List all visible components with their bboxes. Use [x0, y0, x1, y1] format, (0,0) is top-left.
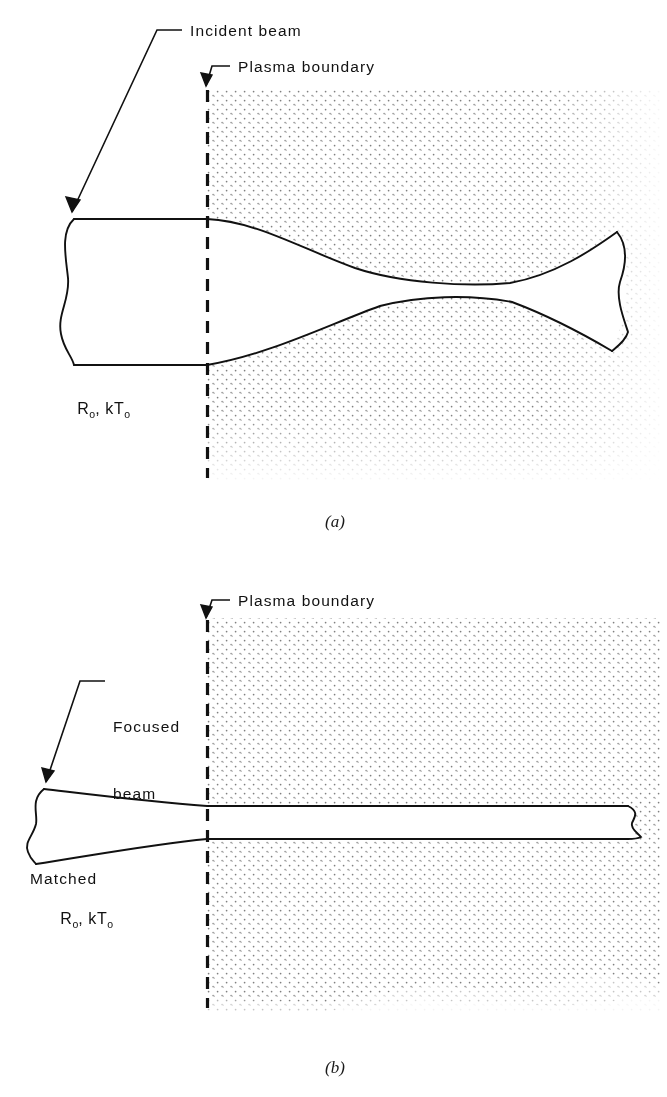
label-beam-params-a: Ro, kTo: [57, 382, 130, 438]
plasma-region-a: [207, 88, 660, 480]
label-incident-beam: Incident beam: [190, 21, 302, 41]
label-kT-b: , kT: [78, 910, 107, 927]
plasma-region-b: [207, 618, 660, 1012]
leader-focused-beam: [42, 681, 105, 782]
label-kT-sub-b: o: [107, 919, 113, 931]
label-kT-a: , kT: [95, 400, 124, 417]
label-matched-params: Matched Ro, kTo: [30, 869, 113, 949]
leader-incident-beam: [66, 30, 182, 212]
leader-plasma-boundary-b: [201, 600, 230, 618]
caption-panel-b: (b): [325, 1058, 345, 1078]
beam-break-line-left-b: [27, 789, 44, 864]
beam-break-line-left-a: [60, 219, 74, 365]
leader-plasma-boundary-a: [201, 66, 230, 86]
panel-a-group: [60, 30, 660, 480]
label-matched-line2: Ro, kTo: [30, 892, 113, 948]
label-plasma-boundary-a: Plasma boundary: [238, 57, 375, 77]
label-R-a: R: [77, 400, 89, 417]
figure-root: Incident beam Plasma boundary Ro, kTo (a…: [0, 0, 667, 1097]
label-focused-beam-line2: beam: [113, 783, 180, 805]
label-plasma-boundary-b: Plasma boundary: [238, 591, 375, 611]
label-matched-line1: Matched: [30, 869, 113, 889]
label-focused-beam: Focused beam: [113, 671, 180, 851]
caption-panel-a: (a): [325, 512, 345, 532]
label-R-b: R: [60, 910, 72, 927]
label-focused-beam-line1: Focused: [113, 716, 180, 738]
label-kT-sub-a: o: [124, 408, 130, 420]
